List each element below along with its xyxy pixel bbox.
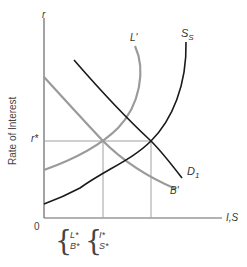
- d-curve-label-sub: 1: [195, 171, 199, 180]
- l-star-label: L*: [70, 230, 80, 241]
- left-group-labels: L* B*: [70, 230, 80, 252]
- r-star-label: r*: [31, 134, 38, 144]
- y-axis-label: Rate of Interest: [7, 97, 18, 165]
- d-curve: [74, 60, 182, 178]
- l-curve: [44, 46, 140, 170]
- b-curve-label: B': [170, 186, 179, 196]
- origin-label: 0: [34, 221, 40, 232]
- b-curve: [44, 77, 176, 189]
- b-star-label: B*: [70, 241, 80, 252]
- l-curve-label: L': [130, 33, 137, 43]
- i-star-label: I*: [99, 230, 109, 241]
- s-star-label: S*: [99, 241, 109, 252]
- s-curve-label-sub: S: [188, 33, 193, 42]
- d-curve-label-main: D: [187, 165, 195, 177]
- d-curve-label: D1: [187, 166, 199, 180]
- s-curve-label: SS: [181, 28, 194, 42]
- y-axis-symbol: r: [42, 10, 45, 20]
- right-group-labels: I* S*: [99, 230, 109, 252]
- s-curve: [44, 42, 186, 204]
- x-axis-symbol: I,S: [226, 213, 238, 223]
